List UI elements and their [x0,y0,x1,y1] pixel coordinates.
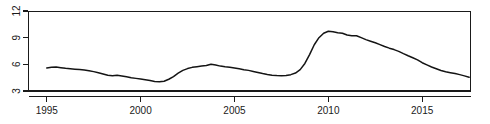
line-chart: 36912 19952000200520102015 [0,0,490,124]
data-series-group [47,31,469,81]
y-tick-label: 3 [11,88,22,94]
x-tick-label: 2005 [223,105,246,116]
x-tick-label: 2000 [130,105,153,116]
y-tick-label: 12 [11,5,22,17]
y-tick-label: 9 [11,34,22,40]
chart-figure: 36912 19952000200520102015 [0,0,490,124]
y-tick-label: 6 [11,61,22,67]
x-tick-label: 1995 [36,105,59,116]
y-axis-tick-labels: 36912 [11,5,22,94]
x-axis-ticks [47,97,422,103]
plot-frame [29,12,471,92]
x-tick-label: 2010 [317,105,340,116]
x-tick-label: 2015 [411,105,434,116]
y-axis-ticks [23,11,29,91]
series-line-value [47,31,469,81]
x-axis-tick-labels: 19952000200520102015 [36,105,434,116]
